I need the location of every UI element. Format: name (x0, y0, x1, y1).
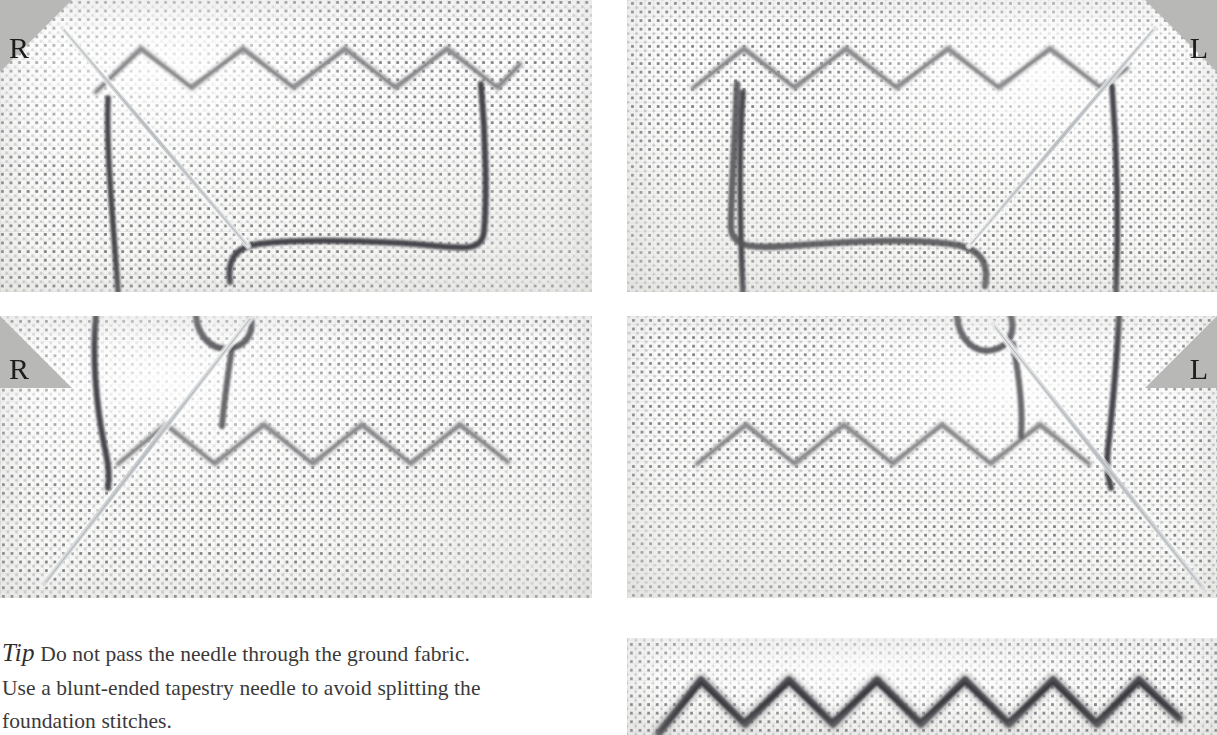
tip-block: Tip Do not pass the needle through the g… (2, 636, 602, 735)
tip-text-1: Do not pass the needle through the groun… (40, 642, 470, 666)
page-root: R L R L Tip Do not pass the needle throu… (0, 0, 1217, 735)
photo-step-1 (0, 0, 592, 292)
stitch-artwork-3 (0, 316, 592, 598)
tab-label: L (1190, 33, 1208, 63)
photo-step-2 (627, 0, 1217, 292)
needle-icon (44, 316, 252, 584)
photo-step-3 (0, 316, 592, 598)
photo-step-4 (627, 316, 1217, 598)
tab-middle-left: R (0, 316, 72, 388)
tab-middle-right: L (1145, 316, 1217, 388)
tab-top-right: L (1145, 0, 1217, 72)
tab-top-left: R (0, 0, 72, 72)
stitch-artwork-4 (627, 316, 1217, 598)
tip-line-3: foundation stitches. (2, 705, 602, 735)
tab-label: R (9, 33, 29, 63)
tab-label: L (1190, 354, 1208, 384)
tip-line-1: Tip Do not pass the needle through the g… (2, 636, 602, 672)
tab-label: R (9, 354, 29, 384)
tip-keyword: Tip (2, 639, 35, 666)
stitch-artwork-2 (627, 0, 1217, 292)
tip-line-2: Use a blunt-ended tapestry needle to avo… (2, 672, 602, 706)
stitch-artwork-5 (627, 638, 1217, 735)
photo-step-5-finished (627, 638, 1217, 735)
stitch-artwork-1 (0, 0, 592, 292)
